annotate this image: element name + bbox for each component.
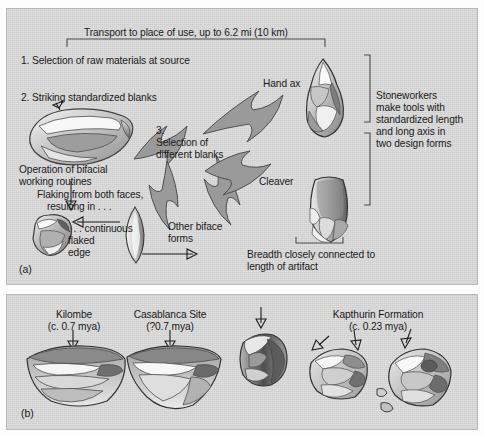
artifact-kapthurin-core-right: [383, 345, 455, 413]
site-label-casablanca-name: Casablanca Site: [117, 309, 223, 321]
continuous-line-3: edge: [68, 247, 90, 259]
flaking-line-2: resulting in . . .: [47, 201, 111, 213]
site-label-kapthurin-date: (c. 0.23 mya): [303, 321, 453, 333]
step-2-label: 2. Striking standardized blanks: [21, 92, 157, 104]
bifacial-line-1: Operation of bifacial: [19, 164, 108, 176]
stoneworkers-line-1: Stoneworkers: [376, 90, 437, 102]
transport-note: Transport to place of use, up to 6.2 mi …: [84, 27, 288, 39]
other-biface-line-2: forms: [168, 233, 193, 245]
panel-a-tool-production-flowchart: Transport to place of use, up to 6.2 mi …: [6, 8, 478, 285]
site-label-kapthurin-name: Kapthurin Formation: [303, 309, 453, 321]
panel-b-label: (b): [21, 407, 34, 419]
figure-root: Transport to place of use, up to 6.2 mi …: [0, 0, 484, 436]
breadth-line-2: length of artifact: [247, 261, 318, 273]
artifact-kilombe-core: [23, 343, 131, 413]
artifact-pointed-biface: [119, 205, 153, 267]
stoneworkers-line-2: make tools with: [376, 102, 445, 114]
site-label-kilombe-name: Kilombe: [31, 309, 117, 321]
site-label-kilombe-date: (c. 0.7 mya): [31, 321, 117, 333]
panel-a-label: (a): [19, 263, 32, 275]
bifacial-line-2: working routines: [19, 176, 92, 188]
flaking-line-1: Flaking from both faces,: [37, 189, 143, 201]
artifact-struck-core: [25, 102, 145, 172]
other-biface-line-1: Other biface: [168, 221, 222, 233]
artifact-round-core: [233, 329, 293, 393]
artifact-cleaver: [303, 174, 357, 246]
site-label-casablanca-date: (?0.7 mya): [117, 321, 223, 333]
panel-b-site-artifacts: Kilombe (c. 0.7 mya) Casablanca Site (?0…: [6, 294, 478, 430]
artifact-kapthurin-core-left: [305, 345, 373, 407]
step-1-label: 1. Selection of raw materials at source: [21, 55, 190, 67]
breadth-line-1: Breadth closely connected to: [247, 249, 375, 261]
continuous-line-1: . . . continuous: [68, 223, 133, 235]
step-3-number: 3.: [156, 125, 164, 137]
cleaver-label: Cleaver: [259, 176, 293, 188]
step-3-line-3: different blanks: [156, 149, 223, 161]
stoneworkers-line-5: two design forms: [376, 138, 451, 150]
hand-ax-label: Hand ax: [263, 78, 300, 90]
artifact-casablanca-core: [123, 343, 227, 417]
stoneworkers-line-3: standardized length: [376, 114, 463, 126]
continuous-line-2: flaked: [68, 235, 95, 247]
step-3-line-2: Selection of: [156, 137, 208, 149]
artifact-hand-ax: [299, 57, 355, 141]
stoneworkers-line-4: and long axis in: [376, 126, 445, 138]
